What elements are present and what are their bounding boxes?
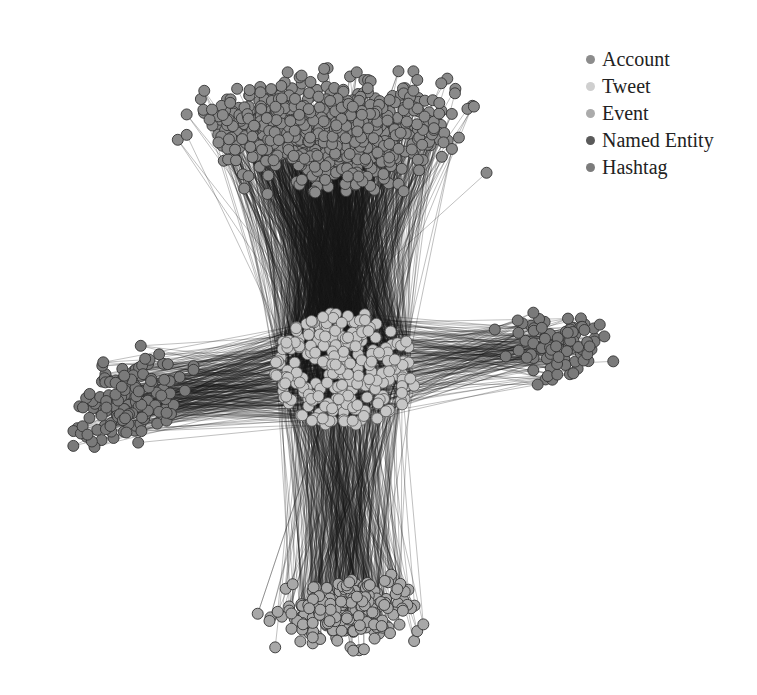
account-dot-icon (586, 55, 595, 64)
legend-item-named-entity: Named Entity (586, 127, 714, 154)
named-entity-dot-icon (586, 136, 595, 145)
legend: Account Tweet Event Named Entity Hashtag (586, 46, 714, 181)
legend-item-account: Account (586, 46, 714, 73)
legend-item-hashtag: Hashtag (586, 154, 714, 181)
event-dot-icon (586, 109, 595, 118)
network-graph-figure: Account Tweet Event Named Entity Hashtag (0, 0, 757, 695)
legend-item-event: Event (586, 100, 714, 127)
legend-item-tweet: Tweet (586, 73, 714, 100)
tweet-dot-icon (586, 82, 595, 91)
hashtag-dot-icon (586, 163, 595, 172)
